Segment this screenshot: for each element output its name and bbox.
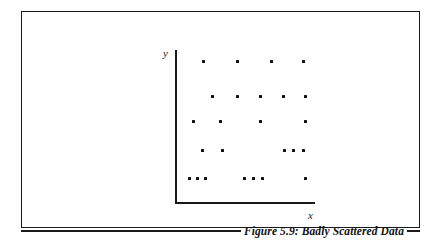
scatter-point xyxy=(292,149,295,152)
scatter-point xyxy=(188,177,191,180)
scatter-point xyxy=(302,149,305,152)
scatter-point xyxy=(283,149,286,152)
figure-frame: y x xyxy=(21,11,420,228)
y-axis-label: y xyxy=(163,48,168,59)
scatter-point xyxy=(211,95,214,98)
x-axis-label: x xyxy=(308,210,313,221)
scatter-point xyxy=(304,120,307,123)
scatter-point xyxy=(261,177,264,180)
scatter-point xyxy=(304,95,307,98)
scatter-point xyxy=(192,120,195,123)
scatter-point xyxy=(196,177,199,180)
scatter-point xyxy=(302,60,305,63)
scatter-point xyxy=(243,177,246,180)
caption-rule-right xyxy=(407,230,420,232)
scatter-point xyxy=(236,60,239,63)
caption-rule-left xyxy=(21,230,241,232)
scatter-point xyxy=(282,95,285,98)
scatter-point xyxy=(204,177,207,180)
scatter-point xyxy=(259,95,262,98)
scatter-point xyxy=(221,149,224,152)
figure-page: y x Figure 5.9: Badly Scattered Data xyxy=(0,0,440,243)
scatter-point xyxy=(259,120,262,123)
scatter-point xyxy=(236,95,239,98)
scatter-point xyxy=(219,120,222,123)
scatter-plot: y x xyxy=(175,48,320,208)
scatter-point xyxy=(270,60,273,63)
figure-caption: Figure 5.9: Badly Scattered Data xyxy=(241,225,407,237)
scatter-point xyxy=(252,177,255,180)
figure-caption-bar: Figure 5.9: Badly Scattered Data xyxy=(21,222,420,240)
scatter-point xyxy=(202,60,205,63)
y-axis-line xyxy=(175,50,177,204)
scatter-point xyxy=(304,177,307,180)
scatter-point xyxy=(201,149,204,152)
x-axis-line xyxy=(175,202,315,204)
